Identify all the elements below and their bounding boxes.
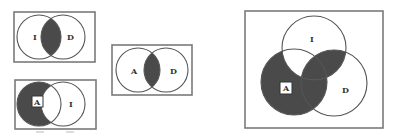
venn-diagram-a-i: A I bbox=[15, 80, 96, 132]
label-d: D bbox=[342, 85, 349, 95]
venn-diagram-i-d: I D bbox=[14, 12, 95, 62]
label-a: A bbox=[282, 83, 290, 93]
venn-diagram-i-a-d: I A D bbox=[245, 11, 383, 128]
label-i: I bbox=[33, 32, 37, 42]
label-d: D bbox=[67, 32, 74, 42]
venn-diagram-a-d: A D bbox=[112, 45, 192, 95]
label-i: I bbox=[69, 99, 73, 109]
venn-figure: I D A I A D I A D bbox=[0, 0, 399, 137]
label-a: A bbox=[130, 66, 138, 76]
label-i: I bbox=[310, 34, 314, 44]
label-a: A bbox=[33, 97, 41, 107]
label-d: D bbox=[170, 66, 177, 76]
